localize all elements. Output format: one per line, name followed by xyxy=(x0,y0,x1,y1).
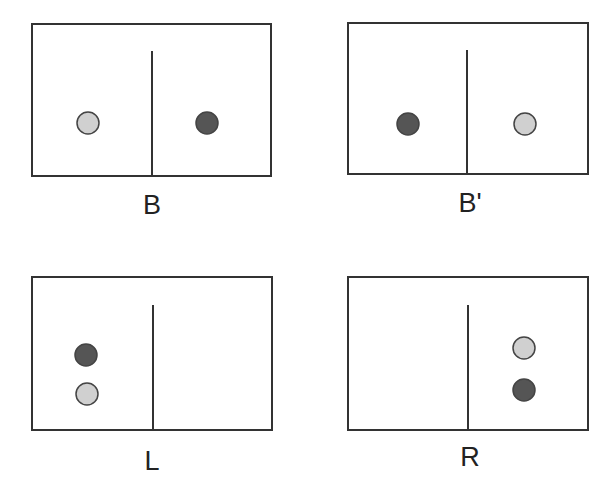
light-circle xyxy=(513,337,535,359)
panel-label-r: R xyxy=(460,444,480,471)
dark-circle xyxy=(196,112,218,134)
dark-circle xyxy=(75,344,97,366)
light-circle xyxy=(77,112,99,134)
panel-b xyxy=(32,24,271,176)
diagram-canvas xyxy=(0,0,613,490)
light-circle xyxy=(76,383,98,405)
panel-label-b-prime: B' xyxy=(458,190,481,217)
panel-label-b: B xyxy=(143,192,161,219)
panel-b-prime xyxy=(348,23,588,174)
dark-circle xyxy=(397,113,419,135)
panel-label-l: L xyxy=(144,448,159,475)
dark-circle xyxy=(513,379,535,401)
panel-r xyxy=(348,277,588,430)
panel-l xyxy=(32,277,272,430)
light-circle xyxy=(514,113,536,135)
